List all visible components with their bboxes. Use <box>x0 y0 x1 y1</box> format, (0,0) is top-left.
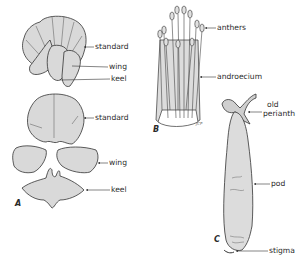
panel-label-c: C <box>214 236 220 244</box>
wing-petal-dissected-left <box>13 146 47 173</box>
artist-signature: JCP <box>196 121 202 126</box>
wing-petal-intact-right <box>62 50 80 86</box>
intact-flower <box>23 16 87 87</box>
label-standard-intact: standard <box>95 43 129 51</box>
legume-flower-diagram <box>0 0 298 258</box>
stigma <box>224 250 234 253</box>
panel-b-callout-lines <box>200 28 216 77</box>
label-pod: pod <box>271 180 285 188</box>
label-wing-dissected: wing <box>109 159 127 167</box>
pod-drawing <box>222 94 256 253</box>
keel-petal-dissected <box>22 168 84 208</box>
label-androecium: androecium <box>217 73 262 81</box>
label-old-perianth-line2: perianth <box>263 110 295 118</box>
label-stigma: stigma <box>269 247 295 255</box>
label-wing-intact: wing <box>109 63 127 71</box>
label-keel-dissected: keel <box>111 186 127 194</box>
panel-label-b: B <box>153 126 159 134</box>
label-keel-intact: keel <box>111 75 127 83</box>
androecium-drawing <box>156 6 204 127</box>
dissected-flower <box>13 94 98 208</box>
label-anthers: anthers <box>217 24 246 32</box>
pod <box>224 112 253 251</box>
wing-petal-dissected-right <box>57 147 98 173</box>
label-standard-dissected: standard <box>95 114 129 122</box>
panel-label-a: A <box>15 200 21 208</box>
label-old-perianth-line1: old <box>267 101 279 109</box>
